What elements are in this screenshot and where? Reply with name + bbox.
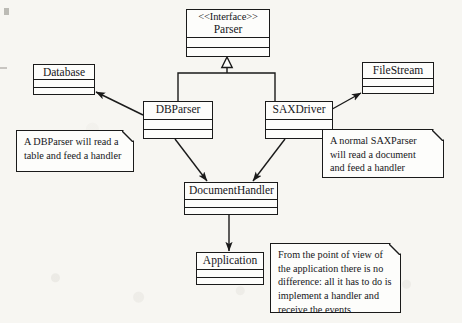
class-attributes-cell bbox=[34, 80, 94, 88]
class-name-cell: DocumentHandler bbox=[185, 183, 277, 200]
class-name: Application bbox=[201, 254, 259, 267]
note-dbparser[interactable]: A DBParser will read a table and feed a … bbox=[16, 130, 134, 172]
class-name-cell: Database bbox=[34, 65, 94, 80]
class-box-filestream[interactable]: FileStream bbox=[362, 62, 434, 94]
class-name: FileStream bbox=[367, 64, 429, 77]
class-attributes-cell bbox=[185, 200, 277, 208]
class-name: SAXDriver bbox=[270, 103, 328, 116]
note-line: A DBParser will read a bbox=[24, 135, 127, 149]
uml-class-diagram: <<Interface>> Parser Database FileStream… bbox=[0, 0, 462, 323]
class-stereotype: <<Interface>> bbox=[191, 11, 265, 23]
class-name-cell: DBParser bbox=[144, 102, 212, 120]
class-attributes-cell bbox=[363, 79, 433, 87]
class-name-cell: FileStream bbox=[363, 63, 433, 79]
class-operations-cell bbox=[34, 88, 94, 95]
class-attributes-cell bbox=[144, 120, 212, 130]
class-box-parser[interactable]: <<Interface>> Parser bbox=[186, 9, 270, 57]
class-attributes-cell bbox=[197, 270, 263, 278]
class-name: Database bbox=[38, 66, 90, 79]
class-name-cell: SAXDriver bbox=[266, 102, 332, 120]
class-name-cell: Application bbox=[197, 253, 263, 270]
edge-dbparser-database bbox=[96, 92, 143, 115]
class-operations-cell bbox=[187, 48, 269, 57]
class-operations-cell bbox=[185, 208, 277, 215]
hollow-triangle-arrowhead bbox=[222, 57, 232, 68]
class-name: DocumentHandler bbox=[189, 184, 273, 197]
note-application[interactable]: From the point of view of the applicatio… bbox=[270, 243, 401, 313]
note-line: From the point of view of bbox=[278, 248, 394, 262]
class-name: DBParser bbox=[148, 103, 208, 116]
note-line: implement a handler and bbox=[278, 289, 394, 303]
class-box-database[interactable]: Database bbox=[33, 64, 95, 95]
note-line: will read a document bbox=[330, 148, 437, 162]
class-name-cell: <<Interface>> Parser bbox=[187, 10, 269, 38]
note-line: table and feed a handler bbox=[24, 149, 127, 163]
class-box-dbparser[interactable]: DBParser bbox=[143, 101, 213, 139]
note-line: and feed a handler bbox=[330, 161, 437, 175]
edge-dbparser-documenthandler bbox=[175, 139, 207, 181]
class-attributes-cell bbox=[266, 120, 332, 130]
note-line: the application there is no bbox=[278, 262, 394, 276]
class-operations-cell bbox=[197, 278, 263, 285]
class-box-documenthandler[interactable]: DocumentHandler bbox=[184, 182, 278, 215]
note-line: A normal SAXParser bbox=[330, 134, 437, 148]
class-name: Parser bbox=[191, 23, 265, 36]
note-saxparser[interactable]: A normal SAXParser will read a document … bbox=[322, 129, 444, 178]
note-line: difference: all it has to do is bbox=[278, 275, 394, 289]
edge-saxdriver-documenthandler bbox=[253, 139, 285, 181]
class-operations-cell bbox=[144, 130, 212, 139]
class-box-application[interactable]: Application bbox=[196, 252, 264, 285]
class-operations-cell bbox=[363, 87, 433, 94]
class-attributes-cell bbox=[187, 38, 269, 48]
realization-to-parser bbox=[178, 57, 275, 101]
